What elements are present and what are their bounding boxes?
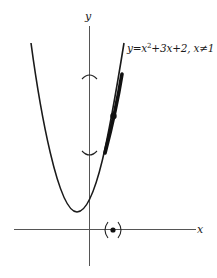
curve-point (110, 113, 116, 119)
equation-prefix: y=x (127, 42, 147, 54)
graph-figure: y x y=x2+3x+2, x≠1 (0, 0, 217, 278)
y-axis-label: y (85, 10, 91, 23)
x-neighborhood-point (110, 227, 115, 232)
equation-suffix: +3x+2, x≠1 (151, 42, 214, 54)
x-axis-label: x (197, 223, 203, 236)
curve-equation-label: y=x2+3x+2, x≠1 (127, 42, 214, 54)
